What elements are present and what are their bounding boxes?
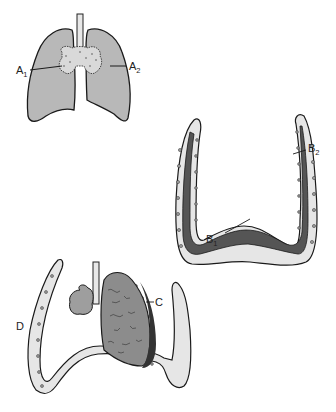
label-c: C [155,296,163,308]
panel-pleura: B1 B2 [176,115,320,265]
bronchus [93,262,99,304]
left-lung [27,29,75,121]
label-a1: A1 [16,64,28,79]
collapsed-lung-small [69,285,93,314]
panel-collapsed-lung: C D [16,259,191,393]
pleural-cavity [183,126,308,254]
diagram-canvas: A1 A2 B1 B2 [0,0,336,412]
panel-lungs: A1 A2 [16,14,141,121]
label-d: D [16,320,24,332]
right-lung [86,29,130,121]
label-a2: A2 [129,60,141,75]
